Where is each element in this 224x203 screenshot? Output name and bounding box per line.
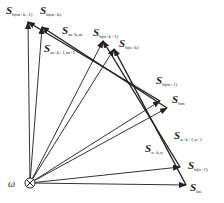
label-s-m-k-1-m-1: Sm+k+1,m+1 [44,43,75,55]
origin-label: ω [8,178,15,189]
vector-sb-n-k-1 [30,41,103,183]
vector-sb-n-1 [30,167,180,183]
label-sb-m-k: Sb(m+k) [40,5,61,17]
label-sb-n-k-1: Sb(n+k+1) [93,27,118,39]
vector-sb-m-k-1 [28,22,30,183]
vector-sb-m-1 [30,101,160,183]
vector-sb-m-k [30,27,42,183]
vector-sbn [30,183,186,185]
label-s-m-k-m: Sm+k,m [62,25,82,37]
label-sb-m-1: Sb(m+1) [156,75,177,87]
label-sbm: Sbm [172,94,185,106]
label-sbn: Sbn [190,182,201,194]
label-sb-n-k: Sb(n+k) [119,38,139,50]
vector-s-n-k-1-n-1 [103,41,180,167]
origin-symbol [25,178,35,188]
vector-s-n-k-n [114,49,186,185]
vector-sb-n-k [30,49,114,183]
label-s-n-k-n: Sn+k,n [145,143,163,155]
label-sb-n-1: Sb(n+1) [188,160,208,172]
label-s-n-k-1-n-1: Sn+k+1,n+1 [174,130,202,142]
label-sb-m-k-1: Sb(m+k+1) [6,5,32,17]
